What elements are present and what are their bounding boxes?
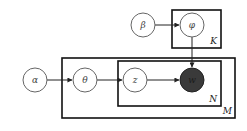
plate-m-label: M [222, 106, 233, 116]
plate-k-label: K [209, 36, 218, 46]
node-z-label: z [132, 75, 138, 85]
node-beta-label: β [139, 20, 145, 30]
node-alpha-label: α [32, 75, 38, 85]
node-theta-label: θ [82, 75, 88, 85]
plate-diagram: K M N α θ z w β φ [0, 0, 247, 131]
node-w-label: w [188, 75, 196, 85]
node-phi-label: φ [189, 20, 196, 30]
plate-n-label: N [208, 94, 218, 104]
